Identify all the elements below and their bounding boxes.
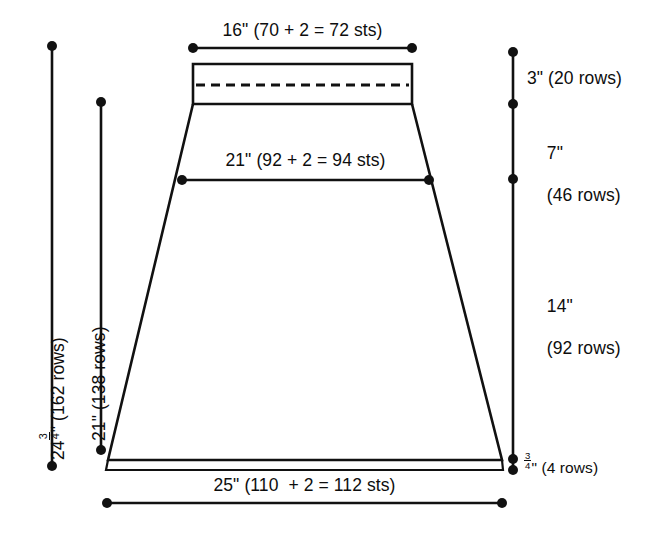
right-vertical-dimension-chain [508,47,518,475]
total-height-label: 2434" (162 rows) [40,337,69,460]
dot-endpoint-icon [508,99,518,109]
dot-endpoint-icon [407,43,417,53]
dot-endpoint-icon [47,41,57,51]
band-height-label: 3" (20 rows) [527,68,622,89]
mid-width-dimension [177,175,434,185]
lower-taper-label-line2: (92 rows) [547,338,621,358]
top-width-dimension [188,43,417,53]
total-height-fraction: 34 [38,432,61,440]
dot-endpoint-icon [188,43,198,53]
top-width-label: 16" (70 + 2 = 72 sts) [193,20,412,41]
total-height-whole: 24 [48,440,68,460]
lower-taper-label-line1: 14" [547,296,573,316]
upper-taper-label-line1: 7" [547,143,563,163]
dot-endpoint-icon [47,461,57,471]
upper-taper-label-line2: (46 rows) [547,185,621,205]
bottom-width-label: 25" (110 + 2 = 112 sts) [107,475,502,496]
dot-endpoint-icon [508,174,518,184]
bottom-width-dimension [102,498,507,508]
dot-endpoint-icon [497,498,507,508]
upper-taper-label: 7" (46 rows) [527,122,621,227]
mid-width-label: 21" (92 + 2 = 94 sts) [182,150,429,171]
hem-height-fraction: 34 [524,451,531,471]
garment-schematic-diagram: 16" (70 + 2 = 72 sts) 21" (92 + 2 = 94 s… [0,0,655,538]
body-height-label: 21" (138 rows) [89,326,110,441]
dot-endpoint-icon [508,454,518,464]
dot-endpoint-icon [96,445,106,455]
dot-endpoint-icon [508,47,518,57]
dot-endpoint-icon [102,498,112,508]
dot-endpoint-icon [424,175,434,185]
hem-band-outline [106,460,503,470]
dot-endpoint-icon [96,97,106,107]
dot-endpoint-icon [508,465,518,475]
lower-taper-label: 14" (92 rows) [527,275,621,380]
hem-height-label: 34" (4 rows) [524,452,598,478]
dot-endpoint-icon [177,175,187,185]
total-height-suffix: " (162 rows) [48,337,68,432]
hem-height-suffix: " (4 rows) [531,459,598,476]
